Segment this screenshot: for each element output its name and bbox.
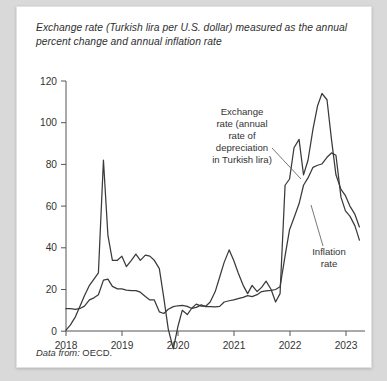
- inflation-rate-series-line: [66, 153, 359, 314]
- page-background: Exchange rate (Turkish lira per U.S. dol…: [0, 0, 387, 381]
- exchange-annotation-leader-line: [272, 148, 301, 179]
- x-tick-label: 2021: [223, 340, 246, 351]
- y-tick-label: 60: [46, 201, 58, 212]
- source-label: Data from:: [36, 347, 80, 358]
- y-tick-label: 120: [40, 76, 57, 87]
- exchange-annotation-line-5: in Turkish lira): [212, 154, 272, 165]
- inflation-annotation-line-2: rate: [321, 258, 338, 269]
- exchange-rate-annotation: Exchange rate (annual rate of depreciati…: [212, 106, 301, 179]
- x-tick-label: 2023: [335, 340, 358, 351]
- x-tick-label: 2020: [167, 340, 190, 351]
- y-tick-group: 120 100 80 60 40 20 0: [40, 76, 66, 337]
- exchange-annotation-line-2: rate (annual: [216, 118, 267, 129]
- exchange-annotation-line-3: rate of: [228, 130, 256, 141]
- chart-svg: 120 100 80 60 40 20 0: [17, 7, 372, 368]
- inflation-rate-annotation: Inflation rate: [311, 205, 346, 269]
- exchange-annotation-line-1: Exchange: [221, 106, 264, 117]
- x-tick-label: 2019: [111, 340, 134, 351]
- inflation-annotation-line-1: Inflation: [312, 246, 346, 257]
- chart-card: Exchange rate (Turkish lira per U.S. dol…: [16, 6, 372, 368]
- y-tick-label: 40: [46, 242, 58, 253]
- chart-plot-area: 120 100 80 60 40 20 0: [17, 7, 372, 368]
- y-tick-label: 100: [40, 117, 57, 128]
- source-caption: Data from: OECD.: [36, 347, 112, 358]
- y-tick-label: 20: [46, 284, 58, 295]
- y-tick-label: 0: [51, 326, 57, 337]
- source-value: OECD.: [80, 347, 112, 358]
- inflation-annotation-leader-line: [311, 205, 323, 246]
- x-tick-label: 2022: [279, 340, 302, 351]
- y-tick-label: 80: [46, 159, 58, 170]
- exchange-annotation-line-4: depreciation: [216, 142, 268, 153]
